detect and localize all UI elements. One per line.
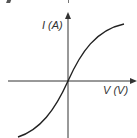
x-axis-arrow-icon	[130, 78, 137, 84]
iv-graph	[0, 0, 137, 138]
y-axis-label: I (A)	[42, 19, 63, 31]
x-axis-label: V (V)	[103, 84, 128, 96]
y-axis-arrow-icon	[65, 12, 71, 19]
